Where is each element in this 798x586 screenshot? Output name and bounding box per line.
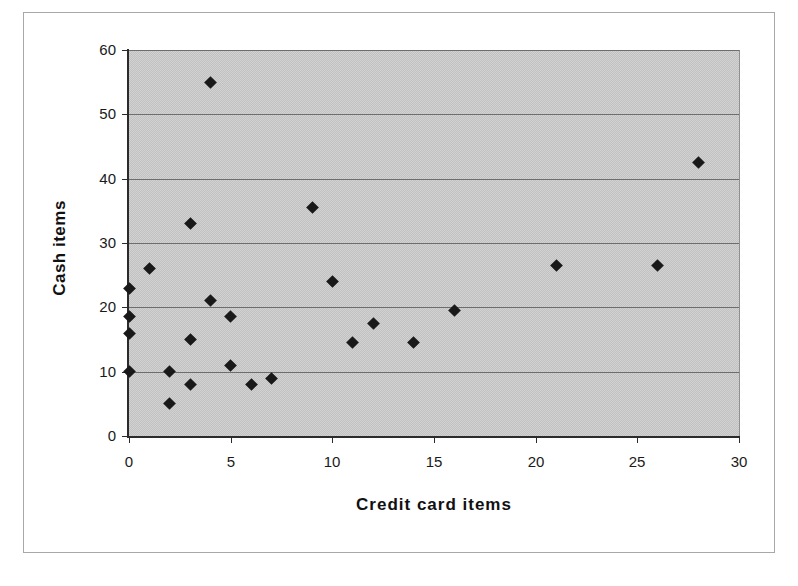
x-tick-mark-15	[434, 438, 435, 443]
x-tick-label-0: 0	[107, 453, 151, 471]
gridline-y-30	[129, 243, 739, 244]
y-tick-mark-50	[122, 114, 128, 115]
gridline-y-20	[129, 307, 739, 308]
gridline-y-50	[129, 114, 739, 115]
scatter-chart: Cash items Credit card items 01020304050…	[0, 0, 798, 586]
y-tick-label-40: 40	[68, 170, 116, 188]
x-tick-label-10: 10	[310, 453, 354, 471]
y-tick-mark-60	[122, 50, 128, 51]
x-tick-label-5: 5	[209, 453, 253, 471]
y-tick-label-10: 10	[68, 363, 116, 381]
y-tick-label-0: 0	[68, 427, 116, 445]
y-tick-label-20: 20	[68, 298, 116, 316]
y-axis-title: Cash items	[50, 200, 70, 296]
y-tick-mark-30	[122, 243, 128, 244]
gridline-y-10	[129, 372, 739, 373]
y-tick-mark-40	[122, 179, 128, 180]
x-tick-mark-25	[637, 438, 638, 443]
y-tick-label-50: 50	[68, 105, 116, 123]
x-tick-mark-10	[332, 438, 333, 443]
x-tick-label-15: 15	[412, 453, 456, 471]
x-tick-label-30: 30	[717, 453, 761, 471]
y-tick-label-30: 30	[68, 234, 116, 252]
x-tick-label-20: 20	[514, 453, 558, 471]
gridline-y-40	[129, 179, 739, 180]
x-tick-mark-0	[129, 438, 130, 443]
y-tick-label-60: 60	[68, 41, 116, 59]
y-tick-mark-20	[122, 307, 128, 308]
x-tick-mark-30	[739, 438, 740, 443]
x-tick-mark-5	[231, 438, 232, 443]
y-tick-mark-0	[122, 436, 128, 437]
x-tick-mark-20	[536, 438, 537, 443]
x-tick-label-25: 25	[615, 453, 659, 471]
x-axis-title: Credit card items	[356, 495, 512, 515]
